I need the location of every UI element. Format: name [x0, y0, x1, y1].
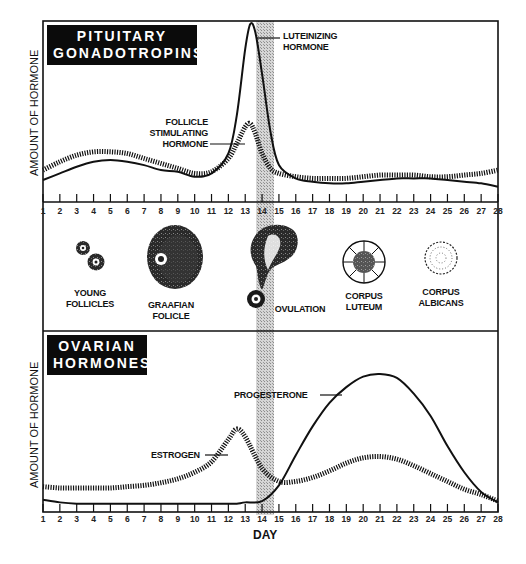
stage-label-line2: ALBICANS — [410, 298, 472, 309]
lh-label-line1: LUTEINIZING — [283, 31, 337, 42]
ovarian-y-axis-label: AMOUNT OF HORMONE — [28, 362, 40, 488]
tick-label: 20 — [355, 514, 371, 524]
tick-label: 5 — [102, 514, 118, 524]
tick-label: 4 — [86, 514, 102, 524]
tick-label: 2 — [52, 206, 68, 216]
tick-label: 27 — [473, 206, 489, 216]
stage-young-follicles-label: YOUNG FOLLICLES — [55, 288, 125, 310]
ovarian-title-line1: OVARIAN — [53, 338, 141, 355]
graafian-follicle-illustration — [147, 225, 203, 289]
tick-label: 2 — [52, 514, 68, 524]
tick-label: 17 — [305, 514, 321, 524]
stage-ovulation-label: OVULATION — [268, 304, 332, 315]
stage-graafian-follicle-label: GRAAFIAN FOLICLE — [136, 300, 206, 322]
tick-label: 19 — [338, 514, 354, 524]
tick-label: 28 — [490, 514, 506, 524]
estrogen-label: ESTROGEN — [151, 450, 200, 461]
tick-label: 3 — [69, 514, 85, 524]
tick-label: 8 — [153, 514, 169, 524]
tick-label: 21 — [372, 514, 388, 524]
tick-label: 9 — [170, 206, 186, 216]
menstrual-cycle-figure: PITUITARY GONADOTROPINS OVARIAN HORMONES… — [0, 0, 526, 564]
tick-label: 15 — [271, 206, 287, 216]
figure-canvas — [0, 0, 526, 564]
stage-label-line2: FOLICLE — [136, 311, 206, 322]
pituitary-y-axis-label: AMOUNT OF HORMONE — [28, 50, 40, 176]
tick-label: 3 — [69, 206, 85, 216]
stage-label-line1: YOUNG — [55, 288, 125, 299]
tick-label: 11 — [204, 206, 220, 216]
tick-label: 23 — [406, 514, 422, 524]
stage-corpus-luteum-label: CORPUS LUTEUM — [334, 291, 394, 313]
tick-label: 28 — [490, 206, 506, 216]
corpus-albicans-illustration — [425, 242, 457, 274]
corpus-luteum-illustration — [343, 241, 385, 283]
tick-label: 26 — [456, 206, 472, 216]
pituitary-title: PITUITARY GONADOTROPINS — [47, 25, 197, 65]
tick-label: 15 — [271, 514, 287, 524]
tick-label: 16 — [288, 514, 304, 524]
x-axis-label: DAY — [253, 528, 277, 542]
stage-label-line1: OVULATION — [268, 304, 332, 315]
stage-label-line2: LUTEUM — [334, 302, 394, 313]
tick-label: 18 — [321, 514, 337, 524]
tick-label: 24 — [423, 514, 439, 524]
lh-label-line2: HORMONE — [283, 42, 337, 53]
tick-label: 22 — [389, 206, 405, 216]
progesterone-label: PROGESTERONE — [234, 390, 308, 401]
tick-label: 21 — [372, 206, 388, 216]
lh-label: LUTEINIZING HORMONE — [283, 31, 337, 53]
tick-label: 12 — [220, 514, 236, 524]
tick-label: 14 — [254, 514, 270, 524]
stage-label-line1: CORPUS — [334, 291, 394, 302]
tick-label: 26 — [456, 514, 472, 524]
tick-label: 27 — [473, 514, 489, 524]
fsh-label-line3: HORMONE — [134, 139, 208, 150]
fsh-label-line2: STIMULATING — [134, 128, 208, 139]
ovarian-title: OVARIAN HORMONES — [47, 335, 147, 375]
tick-label: 10 — [187, 514, 203, 524]
tick-label: 24 — [423, 206, 439, 216]
tick-label: 13 — [237, 206, 253, 216]
tick-label: 25 — [439, 206, 455, 216]
tick-label: 4 — [86, 206, 102, 216]
tick-label: 1 — [35, 206, 51, 216]
tick-label: 5 — [102, 206, 118, 216]
stage-label-line2: FOLLICLES — [55, 299, 125, 310]
ovarian-title-line2: HORMONES — [53, 355, 141, 372]
tick-label: 22 — [389, 514, 405, 524]
tick-label: 9 — [170, 514, 186, 524]
tick-label: 20 — [355, 206, 371, 216]
young-follicles-illustration — [76, 241, 105, 271]
tick-label: 7 — [136, 514, 152, 524]
tick-label: 8 — [153, 206, 169, 216]
stage-label-line1: GRAAFIAN — [136, 300, 206, 311]
pituitary-title-line2: GONADOTROPINS — [53, 45, 191, 62]
tick-label: 6 — [119, 206, 135, 216]
fsh-label: FOLLICLE STIMULATING HORMONE — [134, 117, 208, 150]
tick-label: 17 — [305, 206, 321, 216]
tick-label: 7 — [136, 206, 152, 216]
tick-label: 6 — [119, 514, 135, 524]
tick-label: 13 — [237, 514, 253, 524]
tick-label: 14 — [254, 206, 270, 216]
tick-label: 19 — [338, 206, 354, 216]
tick-label: 1 — [35, 514, 51, 524]
tick-label: 25 — [439, 514, 455, 524]
tick-label: 11 — [204, 514, 220, 524]
tick-label: 18 — [321, 206, 337, 216]
tick-label: 10 — [187, 206, 203, 216]
pituitary-title-line1: PITUITARY — [53, 28, 191, 45]
tick-label: 23 — [406, 206, 422, 216]
stage-corpus-albicans-label: CORPUS ALBICANS — [410, 287, 472, 309]
tick-label: 12 — [220, 206, 236, 216]
tick-label: 16 — [288, 206, 304, 216]
fsh-label-line1: FOLLICLE — [134, 117, 208, 128]
stage-label-line1: CORPUS — [410, 287, 472, 298]
